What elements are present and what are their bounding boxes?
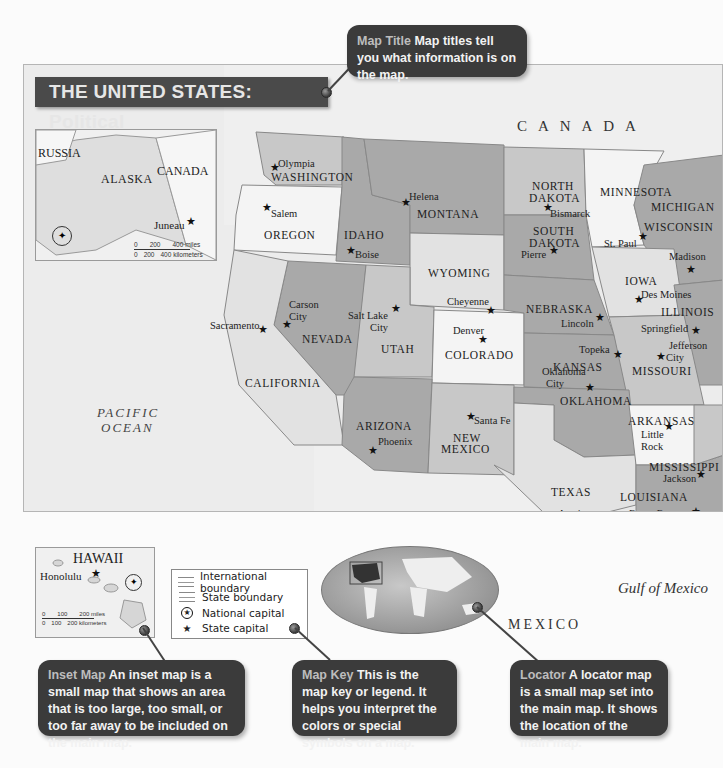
hawaii-label: HAWAII [73,551,123,567]
capital-juneau: Juneau [154,219,185,231]
state-arkansas: ARKANSAS [628,415,695,427]
capital-pierre: Pierre [521,249,546,260]
callout-head: Map Key [302,668,353,682]
state-north-dakota-1: NORTH [532,180,574,192]
callout-inset-map: Inset Map An inset map is a small map th… [38,660,245,736]
scale-label: 0 [134,241,138,248]
capital-carson-city-1: Carson [289,299,319,310]
russia-label: RUSSIA [38,146,81,161]
scale-label: 400 miles [172,241,200,248]
state-north-dakota-2: DAKOTA [529,192,580,204]
state-capital-icon: ★ [186,216,196,227]
map-title: THE UNITED STATES: Political [35,77,328,107]
canada-label: C A N A D A [517,118,640,135]
state-capital-icon: ★ [549,245,559,256]
canada-inset-label: CANADA [157,164,208,179]
state-new-mexico-2: MEXICO [441,443,490,455]
capital-cheyenne: Cheyenne [447,296,489,307]
capital-santa-fe: Santa Fe [474,415,510,426]
scale-label: 200 [144,251,155,258]
callout-map-title: Map Title Map titles tell you what infor… [347,25,527,77]
state-utah: UTAH [381,343,414,355]
state-idaho: IDAHO [344,229,384,241]
state-capital-icon: ★ [478,334,488,345]
state-illinois: ILLINOIS [661,306,714,318]
capital-sacramento: Sacramento [210,320,260,331]
capital-oklahoma-city-1: Oklahoma [542,366,586,377]
capital-salt-lake-city-2: City [370,322,388,333]
state-oklahoma: OKLAHOMA [560,395,632,407]
pacific-label-1: PACIFIC [97,405,159,421]
state-capital-icon: ★ [258,324,268,335]
alaska-scale-bar: 0 200 400 miles 0 200 400 kilometers [134,241,203,258]
state-michigan: MICHIGAN [651,201,715,213]
compass-rose-icon: ✦ [125,574,142,591]
state-south-dakota-1: SOUTH [533,225,574,237]
state-oregon: OREGON [264,229,316,241]
state-washington: WASHINGTON [271,171,353,183]
state-capital-icon: ★ [368,445,378,456]
state-capital-icon: ★ [486,305,496,316]
state-wyoming: WYOMING [428,267,490,279]
capital-des-moines: Des Moines [641,289,691,300]
capital-phoenix: Phoenix [378,436,412,447]
state-nebraska: NEBRASKA [526,303,593,315]
capital-salt-lake-city-1: Salt Lake [348,310,388,321]
state-capital-icon: ★ [282,319,292,330]
state-colorado: COLORADO [445,349,514,361]
callout-head: Map Title [357,34,411,48]
state-louisiana: LOUISIANA [620,491,688,503]
alaska-label: ALASKA [101,172,153,187]
key-row-international-boundary: International boundary [178,574,301,590]
state-capital-icon: ★ [691,506,701,512]
state-minnesota: MINNESOTA [600,186,672,198]
capital-st-paul: St. Paul [604,238,637,249]
state-montana: MONTANA [417,208,479,220]
capital-lincoln: Lincoln [561,318,594,329]
state-texas: TEXAS [551,486,591,498]
international-boundary-icon [178,577,194,587]
state-mississippi: MISSISSIPPI [649,461,720,473]
state-capital-icon: ★ [691,325,701,336]
capital-jefferson-city-2: City [666,352,684,363]
scale-label: 200 [150,241,161,248]
capital-jefferson-city-1: Jefferson [669,340,707,351]
gulf-of-mexico-label: Gulf of Mexico [618,580,708,597]
state-capital-icon: ★ [595,312,605,323]
capital-jackson: Jackson [663,473,696,484]
state-nevada: NEVADA [302,333,353,345]
capital-baton-rouge: Baton Rouge [629,508,684,512]
state-capital-icon: ★ [585,382,595,393]
capital-helena: Helena [409,191,439,202]
capital-bismarck: Bismarck [550,208,590,219]
capital-little-rock-2: Rock [641,441,663,452]
capital-little-rock-1: Little [641,429,664,440]
capital-olympia: Olympia [278,158,315,169]
pacific-label-2: OCEAN [101,420,154,436]
state-california: CALIFORNIA [245,377,321,389]
capital-madison: Madison [669,251,706,262]
capital-honolulu: Honolulu [40,570,82,582]
callout-map-key: Map Key This is the map key or legend. I… [292,660,457,736]
callout-locator: Locator A locator map is a small map set… [510,660,668,736]
state-capital-icon: ★ [91,568,101,579]
scale-label: 0 [134,251,138,258]
capital-salem: Salem [271,208,297,219]
callout-head: Inset Map [48,668,106,682]
capital-topeka: Topeka [579,344,610,355]
state-arizona: ARIZONA [356,420,412,432]
capital-springfield: Springfield [641,323,688,334]
state-capital-icon: ★ [664,421,674,432]
state-capital-icon: ★ [696,469,706,480]
capital-oklahoma-city-2: City [546,378,564,389]
state-capital-icon: ★ [656,351,666,362]
callout-head: Locator [520,668,566,682]
state-missouri: MISSOURI [632,365,692,377]
key-label: International boundary [200,570,301,594]
alaska-inset-map: RUSSIA CANADA ALASKA Juneau ★ ✦ 0 200 40… [35,129,217,261]
state-wisconsin: WISCONSIN [644,221,713,233]
state-capital-icon: ★ [686,264,696,275]
state-capital-icon: ★ [391,303,401,314]
scale-label: 400 kilometers [160,251,202,258]
state-capital-icon: ★ [613,349,623,360]
